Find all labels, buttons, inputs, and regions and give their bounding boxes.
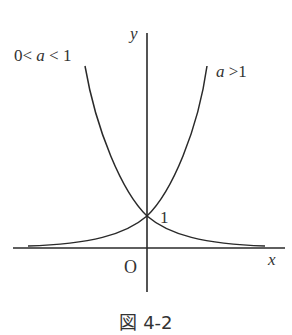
y-axis-label: y: [130, 24, 138, 44]
label-suffix: >1: [225, 62, 247, 81]
curve-a-greater-than-1: [28, 66, 207, 246]
label-prefix: 0<: [14, 46, 36, 65]
label-var: a: [216, 62, 225, 81]
curve-label-increasing: a >1: [216, 62, 247, 82]
label-var: a: [36, 46, 45, 65]
label-suffix: < 1: [45, 46, 72, 65]
x-axis-label: x: [268, 250, 276, 270]
curve-a-between-0-and-1: [85, 66, 265, 246]
curve-label-decreasing: 0< a < 1: [14, 46, 71, 66]
intercept-label: 1: [160, 208, 169, 228]
origin-label: O: [124, 257, 137, 278]
figure-caption: 図 4-2: [0, 308, 292, 334]
